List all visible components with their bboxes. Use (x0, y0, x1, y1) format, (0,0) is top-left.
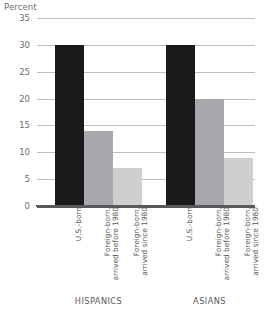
footnote (3, 322, 261, 330)
group-label: HISPANICS (49, 296, 149, 306)
y-tick-label: 5 (4, 174, 30, 184)
bar (166, 45, 195, 206)
x-axis-label: U.S.-born (75, 207, 87, 291)
x-axis-label: Foreign-born, arrived since 1980 (133, 207, 145, 291)
x-axis-label: U.S.-born (186, 207, 198, 291)
x-axis-label: Foreign-born, arrived before 1980 (104, 207, 116, 291)
bar-series (37, 18, 255, 206)
y-tick-label: 35 (4, 13, 30, 23)
y-axis-title: Percent (4, 2, 37, 12)
bar (84, 131, 113, 206)
y-tick-label: 30 (4, 40, 30, 50)
y-tick-label: 20 (4, 94, 30, 104)
x-axis-label: Foreign-born, arrived since 1980 (244, 207, 256, 291)
plot-area: 35302520151050 (37, 18, 255, 206)
bar (55, 45, 84, 206)
y-tick-label: 0 (4, 201, 30, 211)
group-labels: HISPANICSASIANS (37, 296, 255, 310)
group-label: ASIANS (160, 296, 260, 306)
y-tick-label: 15 (4, 120, 30, 130)
bar-chart: Percent 35302520151050 U.S.-bornForeign-… (0, 0, 265, 330)
x-axis-labels: U.S.-bornForeign-born, arrived before 19… (37, 207, 255, 291)
y-tick-label: 10 (4, 147, 30, 157)
bar (195, 99, 224, 206)
y-tick-label: 25 (4, 67, 30, 77)
bar (224, 158, 253, 206)
x-axis-label: Foreign-born, arrived before 1980 (215, 207, 227, 291)
bar (113, 168, 142, 206)
